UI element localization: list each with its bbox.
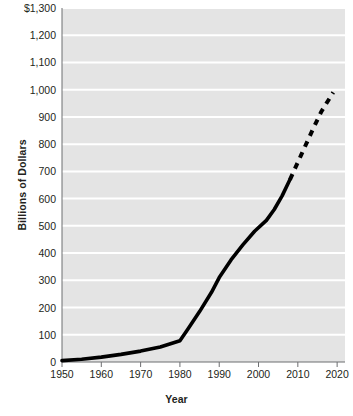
- plot-area: [0, 0, 353, 416]
- plot-background: [62, 8, 345, 362]
- x-axis-title: Year: [0, 393, 353, 405]
- line-chart: Billions of Dollars $1,3001,2001,1001,00…: [0, 0, 353, 416]
